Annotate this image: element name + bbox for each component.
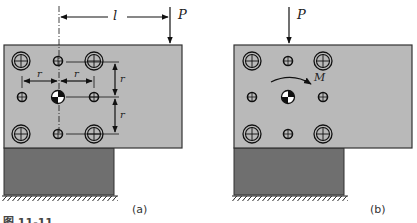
bolted-joint-diagram [0, 0, 417, 223]
distance-label-l: l [113, 9, 117, 22]
bolt-large [85, 52, 103, 70]
figure-b [232, 7, 412, 201]
load-label-p-a: P [178, 8, 187, 21]
bolt-small [248, 93, 257, 102]
centroid-symbol-b [282, 91, 295, 104]
bolt-small [54, 130, 63, 139]
bolt-small [54, 57, 63, 66]
bolt-small [319, 93, 328, 102]
spacing-label-r: r [120, 74, 125, 84]
bolt-large [314, 125, 332, 143]
figure-label-b: (b) [370, 204, 386, 215]
bolt-small [90, 93, 99, 102]
bolt-large [12, 125, 30, 143]
spacing-label-r: r [120, 110, 125, 120]
spacing-label-r: r [37, 69, 42, 79]
figure-a [2, 6, 182, 201]
centroid-symbol-a [52, 91, 65, 104]
bolt-small [284, 57, 293, 66]
ground-hatch-b [232, 196, 348, 201]
spacing-label-r: r [74, 69, 79, 79]
bolt-small [284, 130, 293, 139]
bolt-large [314, 52, 332, 70]
moment-label-m: M [314, 72, 325, 83]
bolt-large [243, 125, 261, 143]
ground-hatch-a [2, 196, 118, 201]
bolt-large [85, 125, 103, 143]
base-block-a [4, 148, 114, 195]
bolt-small [18, 93, 27, 102]
bolt-large [243, 52, 261, 70]
bolt-large [12, 52, 30, 70]
figure-caption: 图 11-11 [3, 217, 53, 223]
plate-a [4, 45, 182, 148]
load-label-p-b: P [297, 8, 306, 21]
base-block-b [234, 148, 344, 195]
figure-label-a: (a) [132, 204, 147, 215]
